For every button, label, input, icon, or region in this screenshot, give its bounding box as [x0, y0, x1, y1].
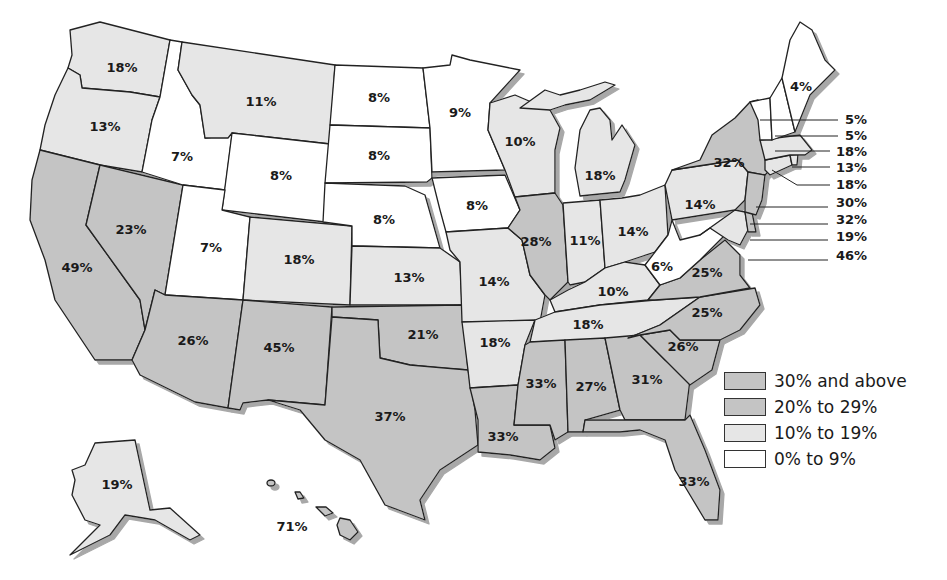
label-nm: 45%: [263, 340, 294, 355]
callout-nh: 5%: [845, 128, 867, 143]
state-mi-up[interactable]: [520, 82, 615, 110]
label-nv: 23%: [115, 222, 146, 237]
label-ny: 32%: [713, 155, 744, 170]
legend-label: 20% to 29%: [774, 397, 877, 417]
callout-nj: 30%: [836, 195, 867, 210]
label-ca: 49%: [61, 260, 92, 275]
label-ok: 21%: [407, 327, 438, 342]
hawaii-island-oahu[interactable]: [295, 492, 304, 499]
label-fl: 33%: [678, 474, 709, 489]
label-mt: 11%: [245, 94, 276, 109]
label-mo: 14%: [478, 274, 509, 289]
hawaii-island-maui[interactable]: [316, 507, 333, 516]
callout-ri: 13%: [836, 160, 867, 175]
label-mi: 18%: [584, 168, 615, 183]
label-ut: 7%: [200, 240, 222, 255]
legend-swatch: [724, 398, 766, 416]
state-mi[interactable]: [575, 108, 635, 196]
legend-item-20-29: 20% to 29%: [724, 395, 907, 419]
hawaii-island-kauai[interactable]: [267, 480, 275, 486]
legend-label: 10% to 19%: [774, 423, 877, 443]
legend-item-10-19: 10% to 19%: [724, 421, 907, 445]
callout-vt: 5%: [845, 112, 867, 127]
callout-de: 32%: [836, 212, 867, 227]
callout-ma: 18%: [836, 144, 867, 159]
legend-swatch: [724, 450, 766, 468]
label-ak: 19%: [101, 477, 132, 492]
label-hi: 71%: [276, 519, 307, 534]
legend-item-0-9: 0% to 9%: [724, 447, 907, 471]
label-sc: 26%: [667, 339, 698, 354]
label-sd: 8%: [368, 148, 390, 163]
label-wv: 6%: [651, 259, 673, 274]
label-az: 26%: [177, 333, 208, 348]
label-id: 7%: [171, 149, 193, 164]
label-ks: 13%: [393, 270, 424, 285]
label-al: 27%: [575, 379, 606, 394]
label-me: 4%: [790, 79, 812, 94]
label-ga: 31%: [631, 372, 662, 387]
label-ne: 8%: [373, 212, 395, 227]
state-ak[interactable]: [70, 440, 200, 555]
label-co: 18%: [283, 252, 314, 267]
leader-ct: [772, 170, 830, 185]
label-nc: 25%: [691, 305, 722, 320]
callout-md: 19%: [836, 229, 867, 244]
label-wy: 8%: [270, 168, 292, 183]
label-tn: 18%: [572, 317, 603, 332]
map-legend: 30% and above 20% to 29% 10% to 19% 0% t…: [724, 369, 907, 473]
label-wi: 10%: [504, 134, 535, 149]
legend-label: 30% and above: [774, 371, 907, 391]
label-ar: 18%: [479, 335, 510, 350]
label-pa: 14%: [684, 197, 715, 212]
alaska-inset: [70, 440, 200, 555]
label-va: 25%: [691, 265, 722, 280]
callout-dc: 46%: [836, 248, 867, 263]
label-la: 33%: [487, 429, 518, 444]
state-fl[interactable]: [583, 415, 720, 520]
label-wa: 18%: [106, 60, 137, 75]
label-ky: 10%: [597, 284, 628, 299]
label-nd: 8%: [368, 90, 390, 105]
label-tx: 37%: [374, 409, 405, 424]
us-choropleth-map: 18% 13% 49% 23% 7% 11% 8% 7% 18% 26% 45%…: [0, 0, 947, 580]
label-or: 13%: [89, 119, 120, 134]
label-il: 28%: [520, 234, 551, 249]
legend-label: 0% to 9%: [774, 449, 856, 469]
legend-swatch: [724, 424, 766, 442]
state-nj[interactable]: [745, 172, 765, 215]
label-ms: 33%: [525, 376, 556, 391]
legend-item-30-plus: 30% and above: [724, 369, 907, 393]
legend-swatch: [724, 372, 766, 390]
label-mn: 9%: [449, 105, 471, 120]
callout-ct: 18%: [836, 177, 867, 192]
label-ia: 8%: [466, 198, 488, 213]
label-in: 11%: [569, 233, 600, 248]
hawaii-island-big[interactable]: [337, 518, 358, 540]
label-oh: 14%: [617, 224, 648, 239]
state-nm[interactable]: [228, 300, 332, 410]
